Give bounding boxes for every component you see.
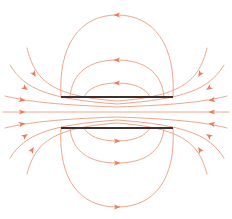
background <box>0 0 232 219</box>
field-line-diagram <box>0 0 232 219</box>
